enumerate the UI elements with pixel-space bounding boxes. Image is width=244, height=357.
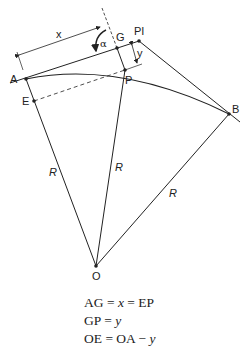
label-y: y (137, 47, 143, 59)
label-e: E (22, 95, 29, 107)
equation-gp: GP = y (84, 312, 155, 330)
line-ep-dashed (34, 70, 125, 101)
point-pi (137, 39, 141, 43)
label-g: G (116, 31, 125, 43)
label-x: x (56, 28, 62, 40)
point-a (24, 77, 28, 81)
label-a: A (10, 73, 18, 85)
label-o: O (92, 270, 101, 282)
label-p: P (125, 74, 132, 86)
equation-oe: OE = OA − y (84, 330, 155, 348)
label-alpha: α (100, 38, 107, 49)
point-p (123, 68, 127, 72)
label-pi: PI (134, 25, 144, 37)
point-b (227, 112, 231, 116)
radius-oa (26, 79, 96, 266)
point-g (115, 46, 119, 50)
equation-ag: AG = x = EP (84, 294, 155, 312)
label-radius-op: R (115, 161, 123, 173)
back-tangent (10, 41, 139, 83)
point-o (94, 264, 98, 268)
offset-line-gp (117, 48, 125, 70)
label-radius-oa: R (49, 166, 57, 178)
forward-tangent (139, 41, 240, 122)
y-extension-p (125, 64, 142, 70)
equations: AG = x = EP GP = y OE = OA − y (84, 294, 155, 348)
point-e (32, 99, 36, 103)
label-b: B (232, 103, 239, 115)
label-radius-ob: R (169, 187, 177, 199)
radius-ob (96, 114, 229, 266)
